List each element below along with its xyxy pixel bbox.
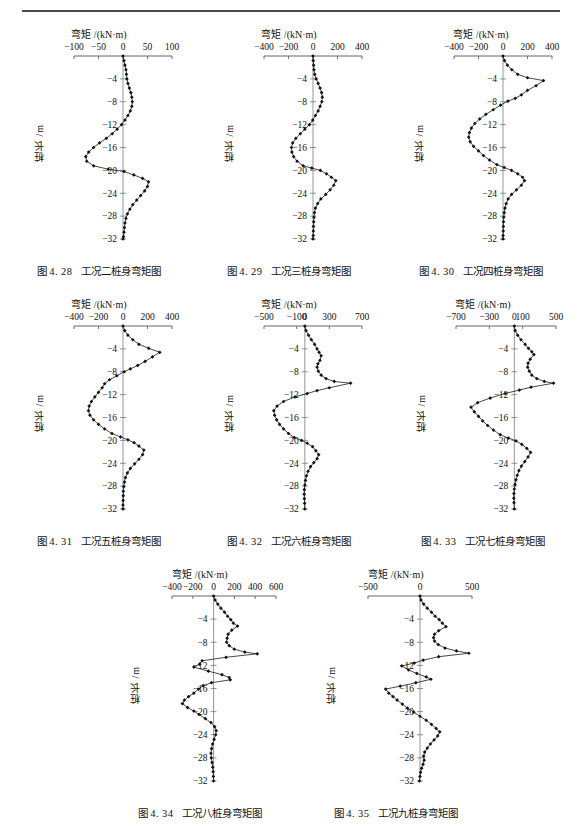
svg-text:200: 200 [227, 582, 242, 592]
svg-text:−200: −200 [469, 42, 489, 52]
svg-text:−100: −100 [64, 42, 84, 52]
svg-text:−700: −700 [446, 312, 466, 322]
svg-text:−28: −28 [102, 481, 117, 491]
caption-number: 4. 30 [431, 266, 454, 277]
figure-caption: 图 4. 28工况二桩身弯矩图 [6, 263, 192, 278]
figure-caption: 图 4. 33工况七桩身弯矩图 [388, 533, 578, 548]
svg-text:−16: −16 [284, 413, 299, 423]
svg-text:−24: −24 [102, 189, 117, 199]
svg-text:−32: −32 [292, 234, 307, 244]
plot-area: −500−1000300700−4−8−12−16−20−24−28−32 [196, 286, 382, 528]
svg-text:−16: −16 [493, 413, 508, 423]
svg-text:−4: −4 [487, 74, 497, 84]
svg-text:−8: −8 [404, 638, 414, 648]
svg-text:−16: −16 [399, 684, 414, 694]
svg-text:−12: −12 [102, 120, 117, 130]
figure-fig-4-33: 弯矩 /(kN·m)桩长 /m−700−3000100500−4−8−12−16… [388, 286, 578, 534]
svg-text:400: 400 [248, 582, 263, 592]
svg-text:−24: −24 [193, 730, 208, 740]
svg-text:0: 0 [501, 42, 506, 52]
svg-text:−300: −300 [480, 312, 500, 322]
svg-text:−24: −24 [482, 189, 497, 199]
svg-text:−32: −32 [102, 504, 117, 514]
svg-text:−12: −12 [482, 120, 497, 130]
figure-fig-4-30: 弯矩 /(kN·m)桩长 /m−400−2000200400−4−8−12−16… [388, 16, 574, 264]
svg-text:400: 400 [355, 42, 370, 52]
caption-text: 工况三桩身弯矩图 [271, 266, 351, 277]
svg-text:−20: −20 [292, 166, 307, 176]
svg-text:−24: −24 [284, 459, 299, 469]
svg-text:−32: −32 [482, 234, 497, 244]
plot-area: −400−2000200400−4−8−12−16−20−24−28−32 [196, 16, 382, 258]
svg-text:−4: −4 [107, 344, 117, 354]
caption-text: 工况五桩身弯矩图 [81, 536, 161, 547]
svg-text:100: 100 [165, 42, 180, 52]
caption-prefix: 图 [421, 536, 431, 547]
svg-text:−32: −32 [399, 776, 414, 786]
svg-text:0: 0 [418, 582, 423, 592]
svg-text:−32: −32 [193, 776, 208, 786]
caption-text: 工况六桩身弯矩图 [271, 536, 351, 547]
plot-area: −400−2000200400−4−8−12−16−20−24−28−32 [388, 16, 574, 258]
figure-caption: 图 4. 31工况五桩身弯矩图 [6, 533, 192, 548]
figure-caption: 图 4. 30工况四桩身弯矩图 [388, 263, 574, 278]
svg-text:−400: −400 [444, 42, 464, 52]
svg-text:−24: −24 [102, 459, 117, 469]
chart-svg: −500−1000300700−4−8−12−16−20−24−28−32 [196, 286, 382, 528]
caption-number: 4. 35 [346, 808, 369, 819]
figure-fig-4-31: 弯矩 /(kN·m)桩长 /m−400−2000200400−4−8−12−16… [6, 286, 192, 534]
svg-text:−500: −500 [358, 582, 378, 592]
svg-text:700: 700 [355, 312, 370, 322]
svg-text:400: 400 [545, 42, 560, 52]
svg-text:−4: −4 [404, 614, 414, 624]
svg-text:0: 0 [311, 42, 316, 52]
svg-text:300: 300 [322, 312, 337, 322]
caption-number: 4. 33 [433, 536, 456, 547]
svg-text:−16: −16 [482, 143, 497, 153]
svg-text:0: 0 [211, 582, 216, 592]
chart-svg: −100−50050100−4−8−12−16−20−24−28−32 [6, 16, 192, 258]
svg-text:−24: −24 [493, 459, 508, 469]
svg-text:−200: −200 [279, 42, 299, 52]
caption-prefix: 图 [419, 266, 429, 277]
svg-text:−200: −200 [89, 312, 109, 322]
svg-text:−500: −500 [254, 312, 274, 322]
svg-text:−28: −28 [102, 211, 117, 221]
svg-text:−8: −8 [197, 638, 207, 648]
svg-text:−8: −8 [487, 97, 497, 107]
svg-text:−400: −400 [254, 42, 274, 52]
svg-text:500: 500 [549, 312, 564, 322]
figure-fig-4-28: 弯矩 /(kN·m)桩长 /m−100−50050100−4−8−12−16−2… [6, 16, 192, 264]
plot-area: −700−3000100500−4−8−12−16−20−24−28−32 [388, 286, 578, 528]
caption-number: 4. 31 [49, 536, 72, 547]
chart-svg: −400−2000200400600−4−8−12−16−20−24−28−32 [100, 556, 300, 802]
caption-text: 工况八桩身弯矩图 [182, 808, 262, 819]
plot-area: −100−50050100−4−8−12−16−20−24−28−32 [6, 16, 192, 258]
svg-text:−28: −28 [193, 753, 208, 763]
svg-text:−200: −200 [183, 582, 203, 592]
svg-text:−28: −28 [399, 753, 414, 763]
svg-text:−4: −4 [289, 344, 299, 354]
figure-caption: 图 4. 34工况八桩身弯矩图 [100, 805, 300, 820]
svg-text:−16: −16 [292, 143, 307, 153]
svg-text:−12: −12 [102, 390, 117, 400]
svg-text:−32: −32 [102, 234, 117, 244]
figure-fig-4-35: 弯矩 /(kN·m)桩长 /m−5000500−4−8−12−16−20−24−… [296, 556, 496, 808]
svg-text:0: 0 [302, 312, 307, 322]
caption-number: 4. 34 [150, 808, 173, 819]
svg-text:−28: −28 [482, 211, 497, 221]
chart-svg: −700−3000100500−4−8−12−16−20−24−28−32 [388, 286, 578, 528]
svg-text:−50: −50 [91, 42, 106, 52]
svg-text:600: 600 [269, 582, 284, 592]
svg-text:−28: −28 [493, 481, 508, 491]
chart-svg: −400−2000200400−4−8−12−16−20−24−28−32 [388, 16, 574, 258]
svg-text:−20: −20 [102, 436, 117, 446]
plot-area: −400−2000200400600−4−8−12−16−20−24−28−32 [100, 556, 300, 802]
figure-fig-4-32: 弯矩 /(kN·m)桩长 /m−500−1000300700−4−8−12−16… [196, 286, 382, 534]
figure-fig-4-29: 弯矩 /(kN·m)桩长 /m−400−2000200400−4−8−12−16… [196, 16, 382, 264]
caption-text: 工况七桩身弯矩图 [465, 536, 545, 547]
chart-svg: −5000500−4−8−12−16−20−24−28−32 [296, 556, 496, 802]
caption-text: 工况九桩身弯矩图 [378, 808, 458, 819]
caption-prefix: 图 [138, 808, 148, 819]
svg-text:−400: −400 [162, 582, 182, 592]
